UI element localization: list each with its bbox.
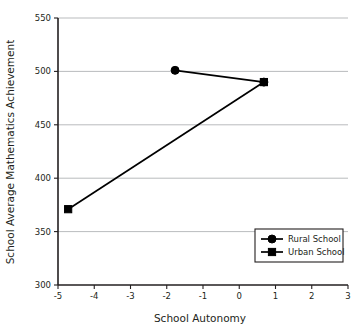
legend-marker-square xyxy=(268,248,275,255)
series-urban-school xyxy=(65,78,268,212)
legend-item-rural-school[interactable]: Rural School xyxy=(261,234,341,244)
series-line-0 xyxy=(175,70,264,82)
x-tick-label-2: 2 xyxy=(309,291,314,301)
data-point-1-0 xyxy=(65,206,72,213)
y-axis-ticks: 300350400450500550 xyxy=(35,13,58,290)
y-tick-label-300: 300 xyxy=(35,280,51,290)
chart-container: 300350400450500550 -5-4-3-2-10123 Rural … xyxy=(0,0,362,329)
x-tick-label-1: 1 xyxy=(273,291,278,301)
y-tick-label-350: 350 xyxy=(35,227,51,237)
y-tick-label-400: 400 xyxy=(35,173,51,183)
legend-label-0: Rural School xyxy=(288,234,341,244)
x-tick-label--2: -2 xyxy=(163,291,171,301)
x-tick-label--1: -1 xyxy=(199,291,207,301)
x-tick-label-0: 0 xyxy=(237,291,242,301)
series-line-1 xyxy=(68,82,264,209)
line-chart: 300350400450500550 -5-4-3-2-10123 Rural … xyxy=(0,0,362,329)
legend-item-urban-school[interactable]: Urban School xyxy=(261,247,345,257)
data-series xyxy=(65,66,268,212)
x-tick-label--5: -5 xyxy=(54,291,62,301)
x-axis-ticks: -5-4-3-2-10123 xyxy=(54,285,351,301)
legend-label-1: Urban School xyxy=(288,247,345,257)
y-tick-label-450: 450 xyxy=(35,120,51,130)
series-rural-school xyxy=(171,66,268,86)
y-tick-label-550: 550 xyxy=(35,13,51,23)
x-axis-title: School Autonomy xyxy=(154,312,246,324)
y-axis-title: School Average Mathematics Achievement xyxy=(4,40,16,265)
gridlines xyxy=(58,18,348,232)
x-tick-label-3: 3 xyxy=(345,291,350,301)
data-point-0-0 xyxy=(171,66,179,74)
y-tick-label-500: 500 xyxy=(35,66,51,76)
chart-legend: Rural SchoolUrban School xyxy=(255,229,345,262)
x-tick-label--4: -4 xyxy=(90,291,98,301)
data-point-1-1 xyxy=(260,78,267,85)
x-tick-label--3: -3 xyxy=(126,291,134,301)
legend-marker-circle xyxy=(268,235,276,243)
